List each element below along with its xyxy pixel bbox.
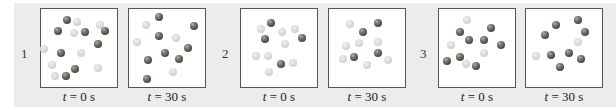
dark-sphere	[184, 44, 192, 52]
panel-number: 3	[420, 46, 427, 62]
box-t30	[525, 8, 603, 88]
dark-sphere	[487, 24, 495, 32]
panel-number: 1	[21, 46, 28, 62]
light-sphere	[48, 61, 56, 69]
light-sphere	[462, 60, 470, 68]
dark-sphere	[63, 16, 71, 24]
light-sphere	[265, 68, 273, 76]
light-sphere	[574, 38, 582, 46]
dark-sphere	[57, 49, 65, 57]
dark-sphere	[54, 27, 62, 35]
dark-sphere	[480, 36, 488, 44]
light-sphere	[133, 38, 141, 46]
dark-sphere	[143, 75, 151, 83]
light-sphere	[278, 28, 286, 36]
dark-sphere	[62, 72, 70, 80]
dark-sphere	[359, 28, 367, 36]
light-sphere	[281, 40, 289, 48]
light-sphere	[447, 41, 455, 49]
time-label: t = 0 s	[234, 89, 324, 105]
dark-sphere	[497, 41, 505, 49]
light-sphere	[346, 20, 354, 28]
light-sphere	[169, 68, 177, 76]
dark-sphere	[94, 40, 102, 48]
light-sphere	[532, 52, 540, 60]
light-sphere	[384, 56, 392, 64]
dark-sphere	[277, 60, 285, 68]
dark-sphere	[541, 31, 549, 39]
light-sphere	[77, 49, 85, 57]
light-sphere	[73, 18, 81, 26]
dark-sphere	[556, 63, 564, 71]
dark-sphere	[175, 55, 183, 63]
dark-sphere	[547, 51, 555, 59]
box-t0	[40, 8, 118, 88]
light-sphere	[289, 59, 297, 67]
dark-sphere	[71, 65, 79, 73]
dark-sphere	[577, 55, 585, 63]
panel-number: 2	[222, 46, 229, 62]
dark-sphere	[267, 19, 275, 27]
light-sphere	[40, 45, 48, 53]
dark-sphere	[190, 22, 198, 30]
light-sphere	[257, 25, 265, 33]
light-sphere	[252, 52, 260, 60]
time-label: t = 30 s	[322, 89, 412, 105]
dark-sphere	[472, 62, 480, 70]
time-label: t = 30 s	[519, 89, 609, 105]
time-label: t = 0 s	[34, 89, 124, 105]
dark-sphere	[101, 27, 109, 35]
box-t30	[328, 8, 406, 88]
box-t0	[240, 8, 318, 88]
light-sphere	[463, 16, 471, 24]
time-label: t = 0 s	[432, 89, 522, 105]
dark-sphere	[161, 49, 169, 57]
dark-sphere	[81, 28, 89, 36]
light-sphere	[94, 64, 102, 72]
dark-sphere	[144, 56, 152, 64]
light-sphere	[51, 72, 59, 80]
dark-sphere	[298, 34, 306, 42]
light-sphere	[70, 29, 78, 37]
light-sphere	[172, 34, 180, 42]
dark-sphere	[565, 49, 573, 57]
box-t0	[438, 8, 516, 88]
dark-sphere	[261, 35, 269, 43]
dark-sphere	[581, 28, 589, 36]
dark-sphere	[155, 32, 163, 40]
dark-sphere	[350, 53, 358, 61]
dark-sphere	[465, 36, 473, 44]
light-sphere	[291, 25, 299, 33]
light-sphere	[264, 52, 272, 60]
light-sphere	[480, 49, 488, 57]
light-sphere	[339, 55, 347, 63]
light-sphere	[363, 61, 371, 69]
light-sphere	[342, 42, 350, 50]
dark-sphere	[443, 57, 451, 65]
dark-sphere	[456, 28, 464, 36]
dark-sphere	[374, 49, 382, 57]
dark-sphere	[552, 21, 560, 29]
box-t30	[128, 8, 206, 88]
light-sphere	[374, 38, 382, 46]
light-sphere	[355, 39, 363, 47]
light-sphere	[142, 21, 150, 29]
dark-sphere	[374, 19, 382, 27]
dark-sphere	[155, 13, 163, 21]
dark-sphere	[574, 16, 582, 24]
time-label: t = 30 s	[122, 89, 212, 105]
